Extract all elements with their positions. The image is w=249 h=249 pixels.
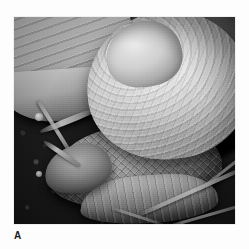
soil-background [14,17,235,224]
photo-vignette [14,17,235,224]
film-grain [14,17,235,224]
panel-label-a: A [14,230,21,242]
snail-head [39,137,117,200]
snail-foot-wrinkles [78,170,219,224]
leaf-lower-lobe [14,65,118,125]
snail-tentacle-upper [39,105,101,135]
snail-shell-apex [101,17,187,93]
twig-left [37,100,77,161]
snail-tentacle-upper-tip [35,113,43,121]
snail-shell [80,17,235,167]
soil-gravel-texture [14,17,235,224]
snail-body [47,118,226,217]
twig-right-secondary [165,200,235,224]
figure-photograph [14,17,235,224]
figure-panel: A [0,0,249,249]
snail-shell-whorls [80,17,235,167]
snail-tentacle-lower-tip [36,171,42,177]
snail-tentacle-lower [42,139,81,168]
snail-body-texture [47,118,226,217]
twig-right-main [138,165,235,217]
twig-bottom [111,206,165,224]
snail-foot [78,170,219,224]
snail-shell-growth-lines [80,17,235,167]
leaf-veins [14,17,141,123]
shell-aperture-shadow [90,115,235,174]
twig-right-upper [197,145,235,193]
leaf-upper-left [14,17,141,123]
